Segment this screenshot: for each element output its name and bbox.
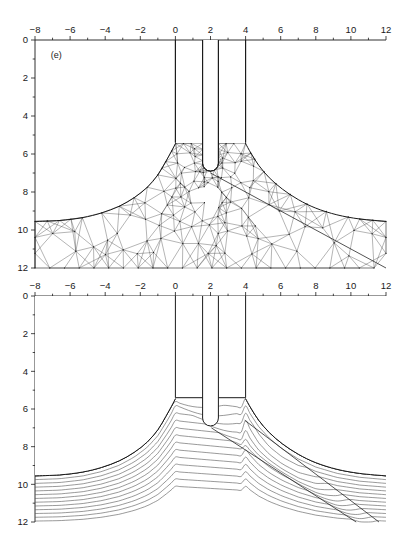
x-tick-label: 10 bbox=[346, 282, 357, 291]
channel-void-right bbox=[218, 296, 245, 398]
y-tick-label: 4 bbox=[23, 366, 28, 377]
panel-f: −8−6−4−2024681012024681012(f) bbox=[0, 282, 411, 551]
x-tick-label: 4 bbox=[243, 282, 248, 291]
x-tick-label: 8 bbox=[313, 24, 318, 35]
y-tick-label: 12 bbox=[17, 516, 28, 527]
x-tick-label: 10 bbox=[346, 24, 357, 35]
x-tick-label: 2 bbox=[208, 282, 213, 291]
panel-f-canvas: −8−6−4−2024681012024681012(f) bbox=[0, 282, 411, 551]
x-tick-label: 2 bbox=[208, 24, 213, 35]
x-tick-label: 6 bbox=[278, 24, 283, 35]
x-tick-label: −2 bbox=[135, 282, 146, 291]
y-tick-label: 8 bbox=[23, 186, 28, 197]
x-tick-label: 4 bbox=[243, 24, 248, 35]
x-tick-label: 0 bbox=[173, 282, 178, 291]
y-tick-label: 6 bbox=[23, 403, 28, 414]
x-tick-label: −6 bbox=[65, 24, 76, 35]
x-tick-label: −4 bbox=[100, 282, 111, 291]
y-tick-label: 2 bbox=[23, 72, 28, 83]
panel-tag-e: (e) bbox=[51, 50, 62, 60]
y-tick-label: 12 bbox=[17, 262, 28, 273]
y-tick-label: 2 bbox=[23, 328, 28, 339]
x-tick-label: 8 bbox=[313, 282, 318, 291]
panel-e: −8−6−4−2024681012024681012(e) bbox=[0, 0, 411, 280]
y-tick-label: 10 bbox=[17, 224, 28, 235]
x-tick-label: −2 bbox=[135, 24, 146, 35]
shear-line bbox=[211, 173, 387, 268]
x-tick-label: 6 bbox=[278, 282, 283, 291]
x-tick-label: 12 bbox=[381, 24, 392, 35]
punch-fill bbox=[203, 40, 219, 171]
y-tick-label: 0 bbox=[23, 290, 28, 301]
y-tick-label: 8 bbox=[23, 441, 28, 452]
channel-void-left bbox=[175, 296, 202, 398]
punch-fill bbox=[203, 296, 219, 426]
surface-mask-right bbox=[246, 296, 386, 476]
x-tick-label: −4 bbox=[100, 24, 111, 35]
x-tick-label: −6 bbox=[65, 282, 76, 291]
y-tick-label: 0 bbox=[23, 34, 28, 45]
streamline bbox=[35, 471, 386, 514]
x-tick-label: 0 bbox=[173, 24, 178, 35]
x-tick-label: 12 bbox=[381, 282, 392, 291]
x-tick-label: −8 bbox=[30, 282, 41, 291]
surface-mask-left bbox=[35, 296, 175, 476]
y-tick-label: 10 bbox=[17, 479, 28, 490]
y-tick-label: 6 bbox=[23, 148, 28, 159]
y-tick-label: 4 bbox=[23, 110, 28, 121]
figure-root: −8−6−4−2024681012024681012(e) −8−6−4−202… bbox=[0, 0, 411, 551]
x-tick-label: −8 bbox=[30, 24, 41, 35]
panel-e-canvas: −8−6−4−2024681012024681012(e) bbox=[0, 0, 411, 280]
free-surface-left bbox=[35, 144, 175, 222]
